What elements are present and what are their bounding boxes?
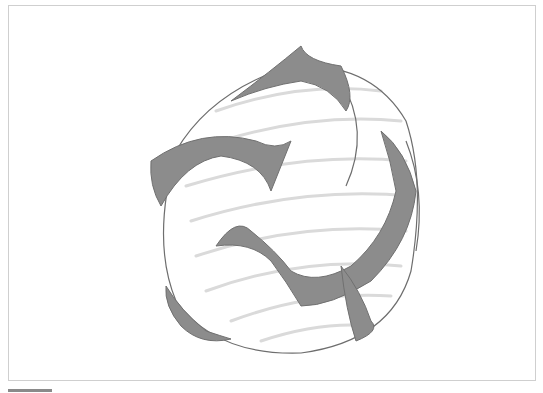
outline [164,66,420,354]
drawing-canvas [8,5,536,381]
scroll-indicator [8,389,52,392]
hatching [186,89,411,342]
sphere-sketch [1,1,543,393]
